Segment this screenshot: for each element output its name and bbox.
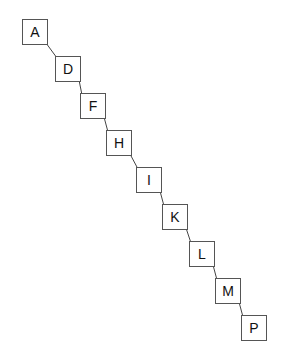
node-label: H — [114, 135, 124, 151]
node-i: I — [136, 167, 162, 193]
node-label: D — [63, 61, 73, 77]
node-m: M — [215, 278, 241, 304]
node-p: P — [241, 315, 267, 341]
node-label: I — [147, 172, 151, 188]
node-h: H — [106, 130, 132, 156]
node-label: F — [89, 98, 98, 114]
node-label: K — [170, 209, 179, 225]
node-k: K — [162, 204, 188, 230]
node-label: L — [198, 246, 206, 262]
node-label: P — [249, 320, 258, 336]
node-d: D — [55, 56, 81, 82]
node-f: F — [80, 93, 106, 119]
node-label: M — [222, 283, 234, 299]
node-l: L — [189, 241, 215, 267]
node-a: A — [22, 19, 48, 45]
node-label: A — [30, 24, 39, 40]
